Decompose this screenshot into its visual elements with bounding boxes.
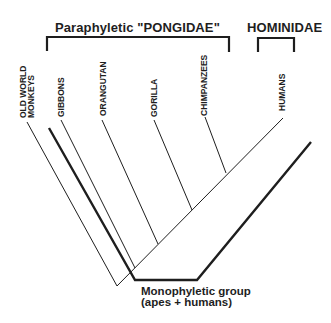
taxon-label-chimpanzees: CHIMPANZEES [200, 55, 208, 116]
branch-gibbons [61, 120, 135, 268]
cladogram: Paraphyletic "PONGIDAE" HOMINIDAE OLD WO… [0, 0, 331, 323]
hominidae-bracket [258, 38, 294, 52]
pongidae-bracket [47, 37, 229, 52]
taxon-owm-line2: MONKEYS [27, 66, 35, 118]
cladogram-lines [0, 0, 331, 323]
branch-orangutan [102, 120, 158, 244]
pongidae-label: Paraphyletic "PONGIDAE" [55, 20, 220, 35]
taxon-label-owm: OLD WORLD MONKEYS [19, 66, 35, 118]
taxon-label-gorilla: GORILLA [150, 79, 158, 117]
monophyletic-note: Monophyletic group (apes + humans) [141, 286, 251, 308]
monophyletic-bracket [49, 128, 311, 280]
branch-chimpanzees [205, 117, 226, 173]
trunk-branch [117, 118, 283, 286]
monophyletic-note-line2: (apes + humans) [141, 297, 251, 308]
taxon-label-orangutan: ORANGUTAN [99, 61, 107, 116]
branch-gorilla [154, 120, 192, 210]
taxon-label-gibbons: GIBBONS [57, 77, 65, 117]
taxon-label-humans: HUMANS [278, 74, 286, 111]
hominidae-label: HOMINIDAE [247, 20, 322, 35]
